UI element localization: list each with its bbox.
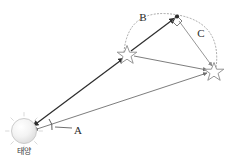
figure-root: A B C 태양 [0, 0, 231, 164]
orbit-apex-point [175, 14, 179, 18]
label-B: B [139, 11, 146, 23]
label-A: A [74, 124, 82, 136]
line-left-star-to-apex [131, 18, 175, 51]
line-apex-to-right-star [179, 21, 212, 66]
label-A-leader [55, 127, 72, 128]
figure-canvas: A B C 태양 [0, 0, 231, 164]
sun-icon [6, 113, 43, 150]
line-sun-to-right-star [34, 73, 207, 130]
sun-caption: 태양 [17, 147, 32, 156]
star-icon-right [204, 63, 224, 81]
label-C: C [197, 27, 204, 39]
line-left-star-to-right-star [134, 56, 207, 70]
